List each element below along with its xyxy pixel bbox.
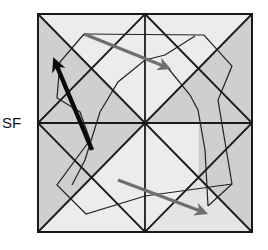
sf-label: SF: [2, 114, 21, 131]
grid-lines: [38, 14, 252, 232]
geometric-diagram: [0, 0, 268, 250]
